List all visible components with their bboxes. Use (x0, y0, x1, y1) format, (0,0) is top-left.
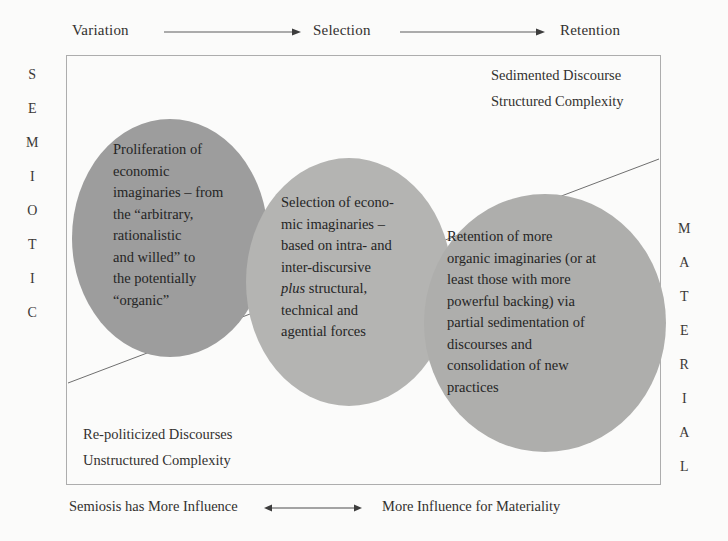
text-line: the potentially (113, 268, 278, 290)
arrow-left-right-icon (264, 502, 362, 514)
annotation-sedimented-discourse: Sedimented Discourse (491, 62, 624, 88)
circle-text-selection: Selection of econo-mic imaginaries –base… (281, 192, 441, 343)
axis-letter: M (26, 126, 39, 160)
axis-letter: M (678, 212, 691, 246)
footer-label-semiosis: Semiosis has More Influence (69, 498, 238, 515)
annotation-structured-complexity: Structured Complexity (491, 88, 624, 114)
axis-letter: I (30, 262, 35, 296)
text-line: economic (113, 161, 278, 183)
text-line: based on intra- and (281, 235, 441, 257)
axis-letter: I (682, 382, 687, 416)
axis-letter: E (680, 314, 689, 348)
axis-label-semiotic: SEMIOTIC (26, 58, 39, 330)
axis-letter: S (28, 58, 36, 92)
text-line: least those with more (447, 269, 647, 291)
flow-step-label-variation: Variation (72, 22, 129, 39)
text-line: technical and (281, 300, 441, 322)
text-line: Selection of econo- (281, 192, 441, 214)
axis-letter: T (28, 228, 37, 262)
annotation-repoliticized-discourses: Re-politicized Discourses (83, 421, 232, 447)
text-line: inter-discursive (281, 257, 441, 279)
figure-canvas: Variation Selection Retention Sedimented… (0, 0, 728, 541)
axis-letter: L (680, 450, 689, 484)
text-line: powerful backing) via (447, 291, 647, 313)
text-line: partial sedimentation of (447, 312, 647, 334)
text-line: agential forces (281, 321, 441, 343)
annotation-top-right: Sedimented Discourse Structured Complexi… (491, 62, 624, 114)
footer-label-materiality: More Influence for Materiality (382, 498, 560, 515)
axis-letter: A (679, 416, 690, 450)
text-line: Proliferation of (113, 139, 278, 161)
text-line: discourses and (447, 334, 647, 356)
axis-letter: E (28, 92, 37, 126)
text-line: practices (447, 377, 647, 399)
text-line: rationalistic (113, 225, 278, 247)
text-line: Retention of more (447, 226, 647, 248)
annotation-bottom-left: Re-politicized Discourses Unstructured C… (83, 421, 232, 473)
axis-letter: I (30, 160, 35, 194)
annotation-unstructured-complexity: Unstructured Complexity (83, 447, 232, 473)
axis-label-material: MATERIAL (678, 212, 691, 484)
axis-letter: R (680, 348, 690, 382)
axis-letter: O (27, 194, 38, 228)
axis-letter: T (680, 280, 689, 314)
text-line: consolidation of new (447, 355, 647, 377)
text-line: imaginaries – from (113, 182, 278, 204)
text-line: mic imaginaries – (281, 214, 441, 236)
flow-step-label-retention: Retention (560, 22, 620, 39)
text-line: and willed” to (113, 247, 278, 269)
footer-caption-row: Semiosis has More Influence More Influen… (0, 498, 728, 524)
axis-letter: A (679, 246, 690, 280)
text-line: “organic” (113, 290, 278, 312)
text-line: plus structural, (281, 278, 441, 300)
flow-step-label-selection: Selection (313, 22, 371, 39)
arrow-right-icon (400, 26, 548, 37)
text-line: the “arbitrary, (113, 204, 278, 226)
circle-text-retention: Retention of moreorganic imaginaries (or… (447, 226, 647, 398)
axis-letter: C (28, 296, 38, 330)
arrow-right-icon (164, 26, 304, 37)
text-line: organic imaginaries (or at (447, 248, 647, 270)
circle-text-variation: Proliferation ofeconomicimaginaries – fr… (113, 139, 278, 311)
